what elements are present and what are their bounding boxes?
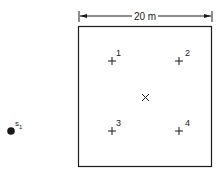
point-label: 2 (185, 48, 190, 58)
center-cross-icon (142, 94, 149, 101)
source-dot-icon (7, 127, 15, 135)
plot-diagram: 20 m 1 2 3 4 s1 (0, 0, 223, 177)
point-label: 1 (116, 48, 121, 58)
plus-marker-icon (175, 127, 183, 135)
sample-point-1: 1 (108, 48, 121, 65)
plus-marker-icon (108, 127, 116, 135)
plus-marker-icon (108, 57, 116, 65)
arrow-right-icon (204, 14, 211, 18)
point-label: 4 (185, 118, 190, 128)
sample-point-4: 4 (175, 118, 190, 135)
sample-point-3: 3 (108, 118, 121, 135)
sample-point-2: 2 (175, 48, 190, 65)
point-label: 3 (116, 118, 121, 128)
source-label: s1 (15, 119, 23, 130)
dimension-label: 20 m (134, 11, 156, 22)
arrow-left-icon (80, 14, 87, 18)
plus-marker-icon (175, 57, 183, 65)
